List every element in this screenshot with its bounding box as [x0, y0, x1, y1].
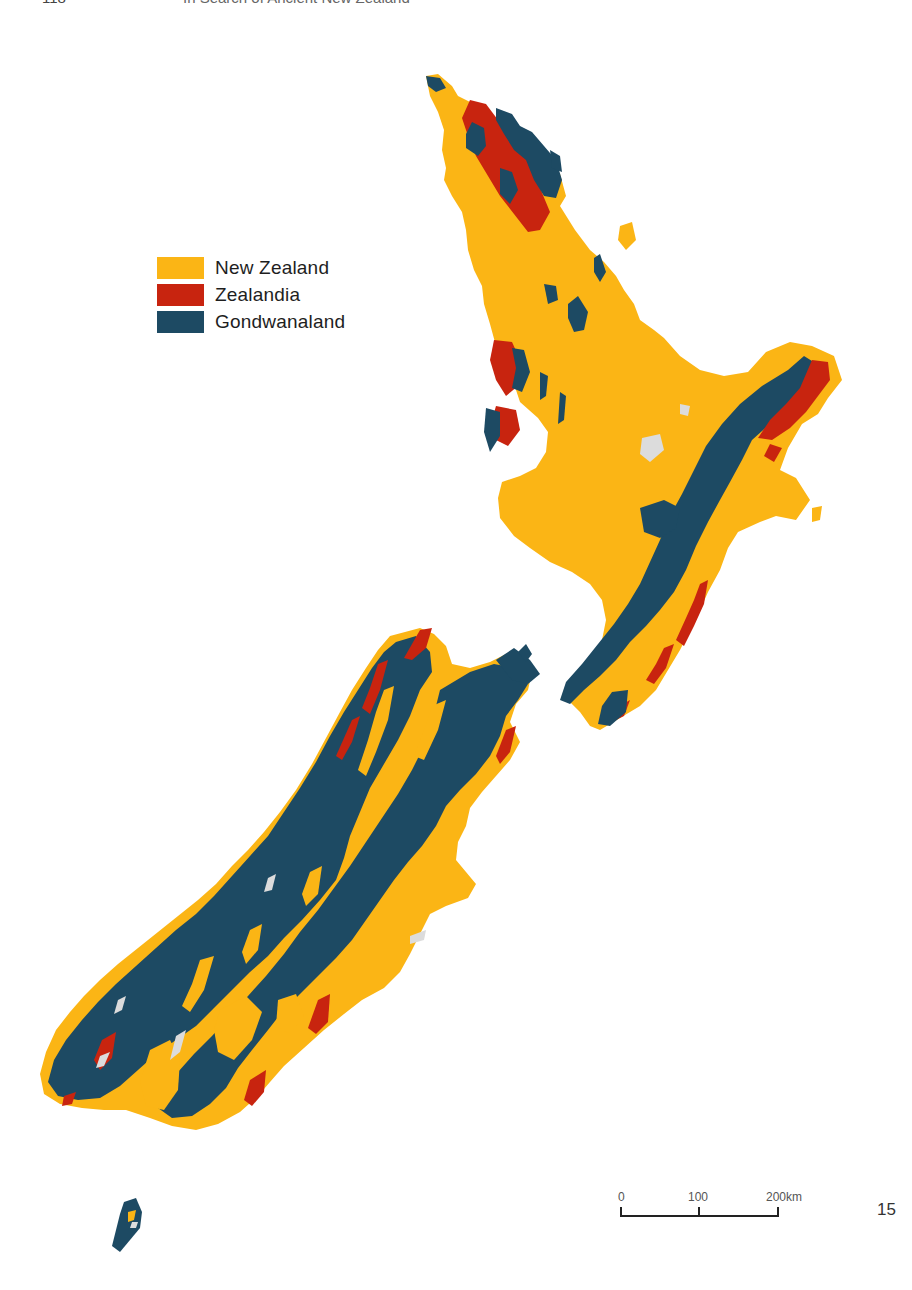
legend-label: Gondwanaland — [215, 311, 345, 333]
scale-label-0: 0 — [618, 1190, 625, 1204]
map-legend: New Zealand Zealandia Gondwanaland — [157, 255, 345, 336]
scale-line — [620, 1215, 779, 1217]
south-island — [40, 628, 540, 1130]
scale-label-200km: 200km — [766, 1190, 802, 1204]
north-island — [426, 74, 842, 730]
scale-bar: 0 100 200km — [618, 1190, 818, 1230]
new-zealand-swatch-icon — [157, 257, 204, 279]
scale-label-100: 100 — [688, 1190, 708, 1204]
new-zealand-geology-map — [0, 0, 912, 1290]
legend-label: New Zealand — [215, 257, 329, 279]
zealandia-swatch-icon — [157, 284, 204, 306]
gondwanaland-swatch-icon — [157, 311, 204, 333]
legend-label: Zealandia — [215, 284, 300, 306]
legend-item-new-zealand: New Zealand — [157, 255, 345, 281]
stewart-island — [112, 1198, 142, 1252]
legend-item-zealandia: Zealandia — [157, 282, 345, 308]
legend-item-gondwanaland: Gondwanaland — [157, 309, 345, 335]
page-number: 15 — [877, 1200, 896, 1220]
